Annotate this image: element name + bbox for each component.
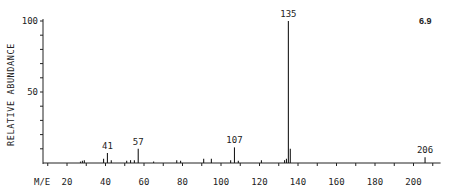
y-axis-label: RELATIVE ABUNDANCE (6, 43, 16, 146)
x-tick-label: 60 (139, 177, 150, 187)
y-tick-label: 100 (22, 16, 38, 26)
x-tick-label: 120 (251, 177, 267, 187)
x-tick-label: 100 (213, 177, 229, 187)
y-axis-ticks: 50100 (22, 16, 43, 149)
x-axis-label: M/E (34, 177, 50, 187)
mass-spectrum-chart: 50100 20406080100120140160180200 4157107… (0, 0, 454, 195)
figure-number: 6.9 (419, 16, 432, 26)
y-tick-label: 50 (27, 87, 38, 97)
peak-labels: 4157107135206 (102, 9, 433, 155)
peak-label-206: 206 (417, 145, 433, 155)
peak-label-107: 107 (226, 135, 242, 145)
peak-label-57: 57 (133, 137, 144, 147)
x-tick-label: 80 (177, 177, 188, 187)
x-tick-label: 160 (328, 177, 344, 187)
x-axis-ticks: 20406080100120140160180200 (48, 163, 433, 187)
x-tick-label: 20 (62, 177, 73, 187)
x-tick-label: 200 (405, 177, 421, 187)
x-tick-label: 140 (290, 177, 306, 187)
x-tick-label: 180 (367, 177, 383, 187)
x-tick-label: 40 (100, 177, 111, 187)
peak-label-41: 41 (102, 141, 113, 151)
peak-label-135: 135 (280, 9, 296, 19)
